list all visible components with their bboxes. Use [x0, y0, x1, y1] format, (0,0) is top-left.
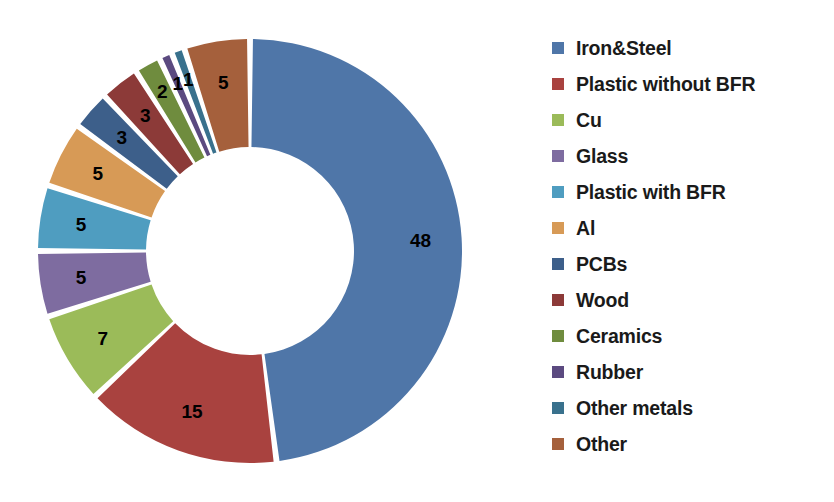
legend-swatch-icon: [552, 78, 564, 90]
legend-item[interactable]: Plastic without BFR: [552, 66, 828, 102]
slice-data-label: 7: [98, 328, 109, 349]
legend-swatch-icon: [552, 366, 564, 378]
legend-swatch-icon: [552, 150, 564, 162]
donut-plot-area: 48157555332115: [10, 14, 490, 488]
legend-item-label: Rubber: [576, 361, 643, 384]
slice-data-label: 15: [182, 401, 204, 422]
legend-item-label: Al: [576, 217, 595, 240]
legend-swatch-icon: [552, 330, 564, 342]
legend-item-label: Other: [576, 433, 627, 456]
legend-item-label: Plastic without BFR: [576, 73, 755, 96]
legend-item[interactable]: PCBs: [552, 246, 828, 282]
legend: Iron&SteelPlastic without BFRCuGlassPlas…: [552, 30, 828, 462]
legend-item[interactable]: Glass: [552, 138, 828, 174]
legend-item-label: Ceramics: [576, 325, 662, 348]
slice-data-label: 48: [410, 230, 431, 251]
slice-data-label: 5: [92, 163, 103, 184]
slice-data-label: 3: [140, 105, 151, 126]
legend-item[interactable]: Wood: [552, 282, 828, 318]
legend-swatch-icon: [552, 258, 564, 270]
legend-item-label: Plastic with BFR: [576, 181, 726, 204]
legend-item[interactable]: Cu: [552, 102, 828, 138]
legend-item[interactable]: Plastic with BFR: [552, 174, 828, 210]
slice-data-label: 1: [183, 69, 194, 90]
slice-data-label: 1: [172, 73, 183, 94]
legend-item-label: PCBs: [576, 253, 627, 276]
legend-item[interactable]: Ceramics: [552, 318, 828, 354]
legend-item-label: Other metals: [576, 397, 693, 420]
legend-item[interactable]: Al: [552, 210, 828, 246]
legend-swatch-icon: [552, 438, 564, 450]
donut-svg: 48157555332115: [10, 14, 490, 488]
legend-item-label: Wood: [576, 289, 629, 312]
legend-swatch-icon: [552, 114, 564, 126]
legend-item-label: Iron&Steel: [576, 37, 672, 60]
legend-swatch-icon: [552, 222, 564, 234]
legend-swatch-icon: [552, 402, 564, 414]
slice-data-label: 3: [116, 127, 127, 148]
legend-swatch-icon: [552, 186, 564, 198]
legend-item[interactable]: Other: [552, 426, 828, 462]
slice-data-label: 5: [76, 214, 87, 235]
pie-chart: 48157555332115 Iron&SteelPlastic without…: [0, 0, 834, 502]
donut-slices: [38, 39, 462, 463]
legend-swatch-icon: [552, 42, 564, 54]
legend-swatch-icon: [552, 294, 564, 306]
legend-item-label: Glass: [576, 145, 628, 168]
legend-item-label: Cu: [576, 109, 602, 132]
slice-data-label: 2: [157, 81, 168, 102]
legend-item[interactable]: Rubber: [552, 354, 828, 390]
legend-item[interactable]: Other metals: [552, 390, 828, 426]
slice-data-label: 5: [76, 267, 87, 288]
legend-item[interactable]: Iron&Steel: [552, 30, 828, 66]
slice-data-label: 5: [218, 72, 229, 93]
